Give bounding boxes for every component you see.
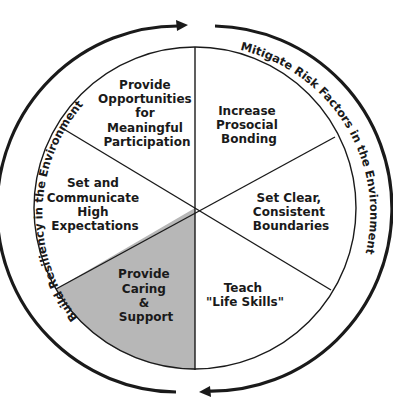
segment-label-meaningful-participation: Provide Opportunities for Meaningful Par… <box>98 78 196 149</box>
segment-label-life-skills: Teach "Life Skills" <box>206 281 284 309</box>
resiliency-wheel-diagram: Build Resiliency in the Environment Miti… <box>0 0 393 416</box>
segment-label-prosocial-bonding: Increase Prosocial Bonding <box>216 104 282 146</box>
arrow-left-icon <box>199 386 211 397</box>
segment-label-high-expectations: Set and Communicate High Expectations <box>47 176 144 233</box>
arrow-right-icon <box>176 20 188 31</box>
segment-label-clear-boundaries: Set Clear, Consistent Boundaries <box>253 191 329 233</box>
segment-label-caring-support: Provide Caring & Support <box>118 267 174 324</box>
